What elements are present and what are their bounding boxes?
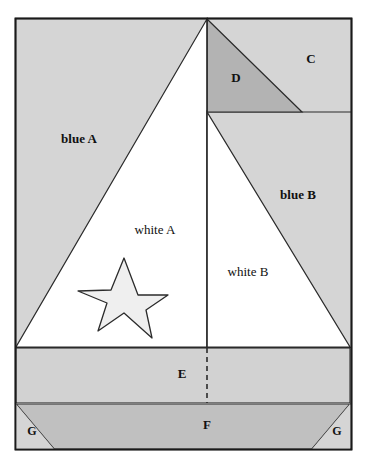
label-blue-a: blue A bbox=[61, 131, 97, 146]
label-blue-b: blue B bbox=[280, 187, 316, 202]
sailboat-geometry-figure: blue A blue B white A white B C D E F G … bbox=[0, 0, 367, 466]
label-region-d: D bbox=[231, 70, 240, 85]
label-region-g-right: G bbox=[332, 424, 341, 438]
label-region-g-left: G bbox=[27, 424, 36, 438]
hull-f-shape bbox=[16, 404, 350, 449]
label-region-c: C bbox=[306, 51, 315, 66]
label-white-b: white B bbox=[228, 264, 269, 279]
diagram-canvas: blue A blue B white A white B C D E F G … bbox=[0, 0, 367, 466]
label-region-e: E bbox=[178, 366, 187, 381]
label-white-a: white A bbox=[135, 222, 176, 237]
label-region-f: F bbox=[203, 417, 211, 432]
